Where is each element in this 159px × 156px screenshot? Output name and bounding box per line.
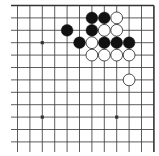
black-stone xyxy=(86,12,98,24)
white-stone xyxy=(98,49,110,61)
black-stone xyxy=(123,37,135,49)
stones-layer xyxy=(61,12,135,86)
white-stone xyxy=(111,49,123,61)
black-stone xyxy=(61,24,73,36)
white-stone xyxy=(123,49,135,61)
white-stone xyxy=(111,24,123,36)
black-stone xyxy=(98,12,110,24)
white-stone xyxy=(86,49,98,61)
white-stone xyxy=(98,24,110,36)
black-stone xyxy=(98,37,110,49)
white-stone xyxy=(111,12,123,24)
black-stone xyxy=(86,24,98,36)
go-board-diagram xyxy=(0,0,159,156)
black-stone xyxy=(74,37,86,49)
white-stone xyxy=(86,37,98,49)
white-stone xyxy=(123,74,135,86)
star-point xyxy=(41,41,44,44)
star-point xyxy=(41,116,44,119)
star-point xyxy=(115,116,118,119)
black-stone xyxy=(111,37,123,49)
